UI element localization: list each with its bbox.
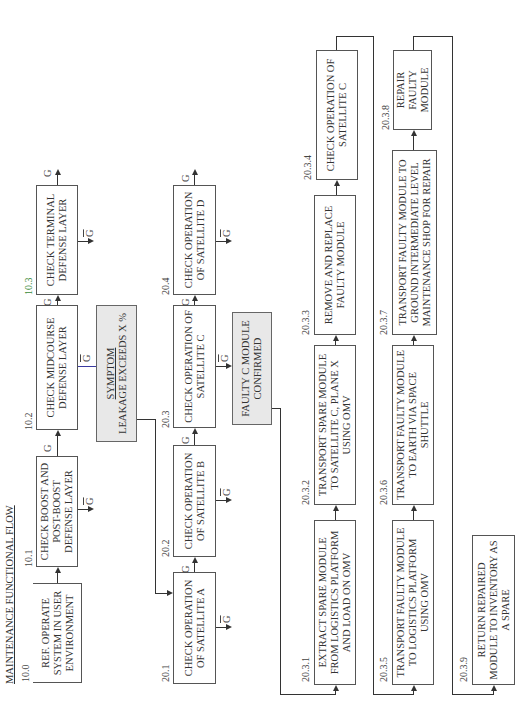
arrow-icon bbox=[333, 335, 339, 341]
node-number: 20.3.8 bbox=[380, 105, 391, 130]
go-label: G bbox=[42, 169, 53, 177]
node-number: 10.2 bbox=[23, 413, 34, 431]
arrow-icon bbox=[192, 295, 198, 301]
connector bbox=[493, 691, 494, 695]
node-text: CHECK BOOST AND POST-BOOST DEFENSE LAYER bbox=[39, 461, 75, 562]
connector bbox=[373, 694, 413, 695]
node-number: 20.3.9 bbox=[458, 657, 469, 682]
arrow-icon bbox=[55, 295, 61, 301]
node-20-1: CHECK OPERATION OF SATELLITE A bbox=[173, 572, 216, 684]
node-20-3-9: RETURN REPAIRED MODULE TO INVENTORY AS A… bbox=[472, 535, 515, 685]
node-text: REPAIR FAULTY MODULE bbox=[395, 55, 431, 125]
go-label: G bbox=[42, 444, 53, 452]
node-20-3-4: CHECK OPERATION OF SATELLITE C bbox=[316, 50, 358, 180]
node-20-3-3: REMOVE AND REPLACE FAULTY MODULE bbox=[314, 195, 356, 335]
arrow-icon bbox=[55, 169, 61, 175]
node-20-3-5: TRANSPORT FAULTY MODULE TO LOGISTICS PLA… bbox=[392, 520, 434, 685]
connector bbox=[194, 434, 195, 445]
node-number: 20.3.2 bbox=[300, 480, 311, 505]
node-text: CHECK TERMINAL DEFENSE LAYER bbox=[45, 190, 69, 290]
connector bbox=[57, 436, 58, 456]
node-10-1: CHECK BOOST AND POST-BOOST DEFENSE LAYER bbox=[36, 456, 78, 567]
connector bbox=[280, 408, 281, 695]
arrow-icon bbox=[55, 430, 61, 436]
node-20-2: CHECK OPERATION OF SATELLITE B bbox=[173, 445, 216, 557]
node-text: CHECK MIDCOURSE DEFENSE LAYER bbox=[45, 310, 69, 425]
connector bbox=[155, 593, 167, 594]
connector bbox=[194, 563, 195, 572]
arrow-icon bbox=[192, 428, 198, 434]
node-text: TRANSPORT FAULTY MODULE TO LOGISTICS PLA… bbox=[395, 525, 431, 680]
go-label: G bbox=[180, 174, 191, 182]
node-text: REMOVE AND REPLACE FAULTY MODULE bbox=[323, 200, 347, 330]
node-text: TRANSPORT FAULTY MODULE TO EARTH VIA SPA… bbox=[395, 350, 431, 500]
connector bbox=[336, 186, 337, 195]
node-10-2: CHECK MIDCOURSE DEFENSE LAYER bbox=[36, 305, 78, 430]
connector bbox=[413, 341, 414, 345]
node-number: 20.1 bbox=[160, 665, 171, 683]
connector bbox=[413, 691, 414, 695]
connector bbox=[413, 136, 414, 150]
connector bbox=[57, 301, 58, 305]
arrow-icon bbox=[411, 335, 417, 341]
node-10-0: REF. OPERATE SYSTEM IN USER ENVIRONMENT bbox=[33, 583, 82, 683]
arrow-icon bbox=[333, 685, 339, 691]
arrow-icon bbox=[334, 180, 340, 186]
node-number: 10.1 bbox=[23, 550, 34, 568]
node-number: 10.3 bbox=[23, 278, 34, 296]
node-text: EXTRACT SPARE MODULE FROM LOGISTICS PLAT… bbox=[317, 525, 353, 680]
connector bbox=[272, 408, 280, 409]
node-text: CHECK OPERATION OF SATELLITE B bbox=[183, 450, 207, 552]
connector bbox=[194, 301, 195, 305]
arrow-icon bbox=[226, 498, 232, 504]
diagram-title: MAINTENANCE FUNCTIONAL FLOW bbox=[4, 505, 15, 684]
connector bbox=[280, 694, 336, 695]
node-text: FAULTY C MODULE CONFIRMED bbox=[240, 317, 264, 420]
node-text: RETURN REPAIRED MODULE TO INVENTORY AS A… bbox=[476, 540, 512, 680]
node-20-3: CHECK OPERATION OF SATELLITE C bbox=[173, 305, 216, 428]
connector bbox=[413, 511, 414, 520]
nogo-label: G bbox=[81, 354, 92, 362]
nogo-label: G bbox=[219, 354, 230, 362]
arrow-icon bbox=[411, 505, 417, 511]
node-text: CHECK OPERATION OF SATELLITE C bbox=[183, 310, 207, 423]
connector bbox=[155, 419, 156, 594]
go-label: G bbox=[42, 298, 53, 306]
node-number: 20.4 bbox=[160, 278, 171, 296]
nogo-label: G bbox=[221, 615, 232, 623]
arrow-icon bbox=[192, 169, 198, 175]
connector bbox=[57, 573, 58, 583]
connector bbox=[336, 36, 337, 50]
node-number: 20.3.7 bbox=[378, 310, 389, 335]
connector bbox=[413, 36, 453, 37]
nogo-label: G bbox=[221, 488, 232, 496]
nogo-connector bbox=[78, 241, 88, 242]
arrow-icon bbox=[411, 130, 417, 136]
connector bbox=[194, 175, 195, 185]
nogo-connector bbox=[216, 241, 226, 242]
node-20-3-7: TRANSPORT FAULTY MODULE TO GROUND INTERM… bbox=[392, 150, 437, 335]
node-text: CHECK OPERATION OF SATELLITE A bbox=[183, 577, 207, 679]
node-text: REF. OPERATE SYSTEM IN USER ENVIRONMENT bbox=[40, 588, 76, 678]
nogo-connector bbox=[78, 509, 88, 510]
arrow-icon bbox=[55, 567, 61, 573]
connector bbox=[452, 694, 493, 695]
node-number: 20.3.4 bbox=[302, 155, 313, 180]
nogo-connector bbox=[216, 366, 226, 367]
connector bbox=[336, 36, 373, 37]
connector bbox=[137, 419, 155, 420]
arrow-icon bbox=[88, 507, 94, 513]
connector bbox=[57, 175, 58, 185]
nogo-label: G bbox=[84, 229, 95, 237]
node-number: 20.3.3 bbox=[300, 310, 311, 335]
connector bbox=[335, 691, 336, 695]
symptom-text: LEAKAGE EXCEEDS X % bbox=[117, 313, 129, 434]
node-20-4: CHECK OPERATION OF SATELLITE D bbox=[173, 185, 216, 295]
connector bbox=[452, 36, 453, 695]
faulty-module-box: FAULTY C MODULE CONFIRMED bbox=[232, 312, 272, 425]
node-number: 20.3.5 bbox=[378, 657, 389, 682]
node-text: TRANSPORT SPARE MODULE TO SATELLITE C, P… bbox=[317, 350, 353, 500]
node-number: 20.3.6 bbox=[378, 480, 389, 505]
go-label: G bbox=[180, 436, 191, 444]
node-number: 20.3.1 bbox=[300, 657, 311, 682]
